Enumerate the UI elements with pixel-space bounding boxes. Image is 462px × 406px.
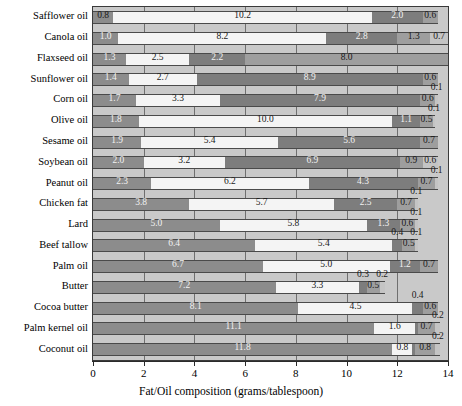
bar-row: 1.810.01.10.50.1: [93, 111, 448, 132]
bar-value-label: 7.9: [314, 93, 326, 104]
bar-value-label: 8.2: [216, 31, 228, 42]
bar-segment: [392, 239, 402, 252]
bar-value-label: 0.7: [421, 321, 433, 332]
bar-value-label: 1.3: [377, 218, 389, 229]
stacked-bar[interactable]: [93, 94, 438, 107]
y-axis-label: Sesame oil: [0, 135, 88, 147]
y-axis-category-labels: Safflower oilCanola oilFlaxseed oilSunfl…: [0, 6, 88, 361]
bar-value-label: 0.4: [391, 227, 403, 238]
bar-value-label: 8.0: [341, 52, 353, 63]
bar-row: 0.810.22.00.6: [93, 7, 448, 28]
y-axis-label: Palm oil: [0, 260, 88, 272]
bar-value-label: 0.4: [412, 290, 424, 301]
bar-value-label: 0.1: [410, 207, 422, 218]
bar-row: 1.95.45.60.7: [93, 132, 448, 153]
y-axis-label: Canola oil: [0, 31, 88, 43]
bar-row: 1.73.37.90.60.1: [93, 90, 448, 111]
bar-value-label: 2.0: [112, 155, 124, 166]
bar-value-label: 0.1: [410, 186, 422, 197]
bar-value-label: 0.1: [431, 82, 443, 93]
bar-value-label: 3.3: [172, 93, 184, 104]
bar-row: 2.36.24.30.70.1: [93, 173, 448, 194]
y-axis-label: Peanut oil: [0, 177, 88, 189]
bar-row: 1.08.22.81.30.7: [93, 28, 448, 49]
y-axis-label: Corn oil: [0, 93, 88, 105]
bar-value-label: 5.4: [204, 135, 216, 146]
bar-row: 6.75.01.20.7: [93, 256, 448, 277]
bar-value-label: 4.3: [357, 176, 369, 187]
bar-value-label: 10.0: [257, 114, 274, 125]
stacked-bar[interactable]: [93, 239, 418, 252]
stacked-bar[interactable]: [93, 156, 438, 169]
bar-value-label: 1.8: [110, 114, 122, 125]
bar-value-label: 0.5: [421, 114, 433, 125]
stacked-bar[interactable]: [93, 302, 438, 315]
bar-value-label: 0.7: [433, 31, 445, 42]
bar-value-label: 0.3: [357, 269, 369, 280]
stacked-bar[interactable]: [93, 136, 438, 149]
bar-value-label: 0.5: [403, 238, 415, 249]
y-axis-label: Flaxseed oil: [0, 52, 88, 64]
bar-segment: [435, 343, 440, 356]
stacked-bar[interactable]: [93, 53, 448, 66]
stacked-bar[interactable]: [93, 11, 438, 24]
stacked-bar[interactable]: [93, 73, 438, 86]
x-axis-tick: [245, 361, 246, 366]
bar-row: 11.80.80.80.2: [93, 339, 448, 360]
bar-value-label: 0.9: [405, 155, 417, 166]
bar-value-label: 1.3: [408, 31, 420, 42]
y-axis-label: Chicken fat: [0, 197, 88, 209]
y-axis-label: Butter: [0, 280, 88, 292]
bar-row: 11.11.60.70.2: [93, 318, 448, 339]
bar-segment: [433, 115, 436, 128]
bar-value-label: 11.1: [226, 321, 242, 332]
x-axis-tick: [194, 361, 195, 366]
bar-value-label: 1.2: [399, 259, 411, 270]
y-axis-label: Coconut oil: [0, 343, 88, 355]
bar-value-label: 2.7: [157, 72, 169, 83]
bar-value-label: 0.8: [396, 342, 408, 353]
y-axis-label: Palm kernel oil: [0, 322, 88, 334]
stacked-bar[interactable]: [93, 281, 385, 294]
bar-value-label: 6.2: [224, 176, 236, 187]
plot-area: 0.810.22.00.61.08.22.81.30.71.32.52.28.0…: [92, 6, 449, 361]
bar-value-label: 2.3: [116, 176, 128, 187]
stacked-bar[interactable]: [93, 343, 440, 356]
fat-oil-composition-chart: Safflower oilCanola oilFlaxseed oilSunfl…: [0, 0, 462, 406]
y-axis-label: Lard: [0, 218, 88, 230]
bar-value-label: 0.7: [423, 135, 435, 146]
bar-value-label: 11.8: [234, 342, 250, 353]
x-axis-tick-label: 6: [242, 367, 248, 379]
stacked-bar[interactable]: [93, 32, 448, 45]
bar-value-label: 0.1: [431, 165, 443, 176]
bar-value-label: 5.4: [318, 238, 330, 249]
stacked-bar[interactable]: [93, 177, 438, 190]
bar-segment: [435, 177, 438, 190]
bar-value-label: 4.5: [350, 301, 362, 312]
x-axis-tick: [448, 361, 449, 366]
bar-value-label: 0.1: [410, 227, 422, 238]
bar-value-label: 0.6: [424, 10, 436, 21]
bar-value-label: 0.5: [367, 280, 379, 291]
bar-value-label: 3.2: [178, 155, 190, 166]
bar-value-label: 2.2: [211, 52, 223, 63]
x-axis-line: [92, 361, 449, 362]
bar-row: 1.42.78.90.6: [93, 69, 448, 90]
bar-row: 1.32.52.28.0: [93, 49, 448, 70]
y-axis-label: Cocoa butter: [0, 301, 88, 313]
bar-value-label: 8.9: [304, 72, 316, 83]
bar-value-label: 2.0: [391, 10, 403, 21]
bar-row: 7.23.30.30.50.2: [93, 277, 448, 298]
bar-value-label: 1.4: [105, 72, 117, 83]
stacked-bar[interactable]: [93, 219, 418, 232]
bar-value-label: 1.7: [109, 93, 121, 104]
bar-value-label: 0.8: [419, 342, 431, 353]
x-axis-tick: [144, 361, 145, 366]
bar-value-label: 1.0: [100, 31, 112, 42]
x-axis-tick-label: 14: [443, 367, 454, 379]
y-axis-label: Sunflower oil: [0, 73, 88, 85]
x-axis-tick: [397, 361, 398, 366]
bar-segment: [415, 239, 418, 252]
bar-segment: [380, 281, 385, 294]
bar-value-label: 2.5: [360, 197, 372, 208]
